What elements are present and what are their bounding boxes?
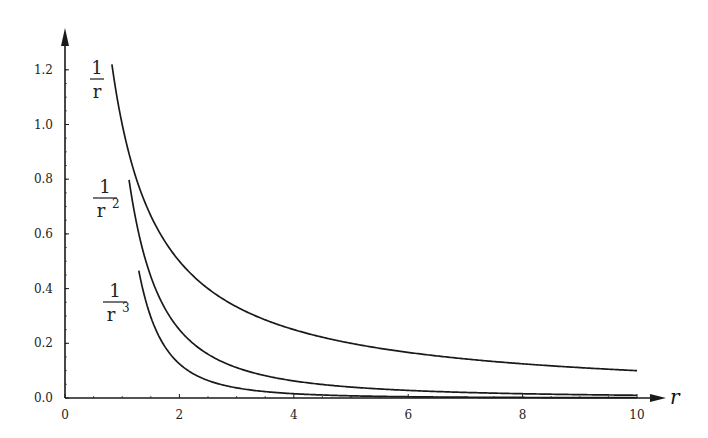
y-tick-label: 0.8 [34,172,53,186]
fraction-exponent: 2 [112,197,120,211]
axes: r02468100.00.20.40.60.81.01.2 [34,28,681,422]
curves [112,64,637,397]
x-axis-title: r [670,385,681,409]
fraction-numerator: 1 [91,57,102,78]
curve-label-inverse-r: 1r [90,57,104,102]
x-tick-label: 10 [629,408,644,422]
x-tick-label: 0 [61,408,69,422]
curve-label-inverse-r-cubed: 1r3 [103,280,130,325]
plot-area: r02468100.00.20.40.60.81.01.2 1r1r21r3 [0,0,708,438]
x-tick-label: 2 [176,408,184,422]
x-tick-label: 4 [290,408,298,422]
fraction-exponent: 3 [122,301,130,315]
fraction-denominator: r [93,81,102,102]
fraction-numerator: 1 [109,280,120,301]
curve-inverse-r-squared [129,180,637,395]
x-axis-arrow-icon [650,394,666,402]
fraction-numerator: 1 [99,176,110,197]
curve-inverse-r-cubed [139,271,637,398]
fraction-denominator: r [107,304,116,325]
curve-inverse-r [112,64,637,370]
curve-label-inverse-r-squared: 1r2 [93,176,120,221]
y-tick-label: 1.0 [34,118,53,132]
x-tick-label: 8 [519,408,527,422]
y-tick-label: 0.4 [34,282,53,296]
y-tick-label: 0.6 [34,227,53,241]
x-tick-label: 6 [404,408,412,422]
y-tick-label: 0.0 [34,391,53,405]
y-tick-label: 0.2 [34,336,53,350]
fraction-denominator: r [97,200,106,221]
curve-labels: 1r1r21r3 [90,57,130,325]
y-tick-label: 1.2 [34,63,53,77]
y-axis-arrow-icon [61,28,69,46]
